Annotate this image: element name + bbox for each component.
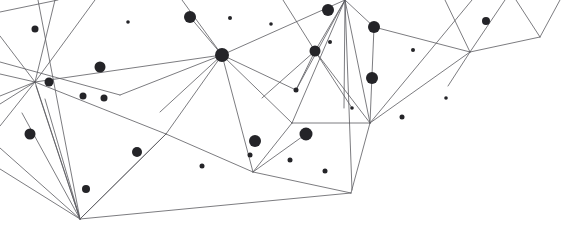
network-node [328, 40, 332, 44]
network-node [25, 129, 36, 140]
network-node [482, 17, 490, 25]
network-node [444, 96, 448, 100]
network-node [350, 106, 354, 110]
network-node [184, 11, 196, 23]
network-node [322, 4, 334, 16]
network-node [411, 48, 415, 52]
network-diagram [0, 0, 582, 238]
network-node [310, 46, 321, 57]
network-node [368, 21, 380, 33]
network-node [132, 147, 142, 157]
network-node [269, 22, 273, 26]
network-node [200, 164, 205, 169]
network-node [95, 62, 106, 73]
network-node [248, 153, 253, 158]
network-node [80, 93, 87, 100]
network-node [126, 20, 130, 24]
network-node [400, 115, 405, 120]
network-node [249, 135, 261, 147]
network-node [366, 72, 378, 84]
network-node [300, 128, 313, 141]
network-node [228, 16, 232, 20]
network-node [45, 78, 54, 87]
network-node [32, 26, 39, 33]
network-node [82, 185, 90, 193]
background-plate [0, 0, 582, 238]
network-node [288, 158, 293, 163]
network-node [323, 169, 328, 174]
network-graphic-canvas: Abstract Network Constellation [0, 0, 582, 238]
network-node [215, 48, 229, 62]
network-node [101, 95, 108, 102]
network-node [294, 88, 299, 93]
